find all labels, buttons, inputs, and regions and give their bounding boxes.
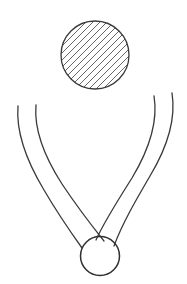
line-drawing-canvas bbox=[0, 0, 187, 284]
figure-root bbox=[0, 0, 187, 284]
